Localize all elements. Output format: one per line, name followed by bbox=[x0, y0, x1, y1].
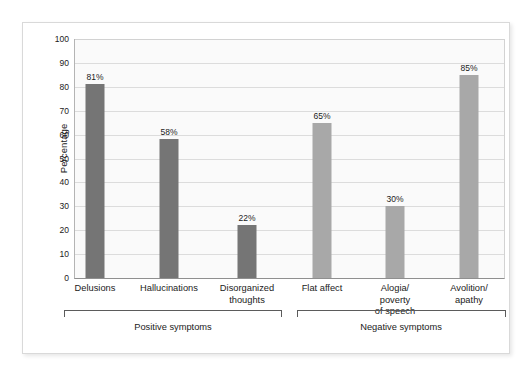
bar-value-label: 58% bbox=[160, 127, 177, 137]
bracket-negative-symptoms bbox=[297, 310, 506, 317]
x-axis-tick-label: Disorganizedthoughts bbox=[204, 283, 290, 306]
y-axis-tick-label: 10 bbox=[60, 249, 69, 259]
bracket-label-positive-symptoms: Positive symptoms bbox=[134, 322, 212, 332]
y-axis-tick-label: 30 bbox=[60, 201, 69, 211]
gridline bbox=[75, 206, 504, 207]
gridline bbox=[75, 230, 504, 231]
y-axis-tick-label: 20 bbox=[60, 225, 69, 235]
bar-value-label: 65% bbox=[313, 111, 330, 121]
bar-value-label: 30% bbox=[386, 194, 403, 204]
gridline bbox=[75, 182, 504, 183]
y-axis-tick-label: 0 bbox=[64, 273, 69, 283]
y-axis-tick-label: 70 bbox=[60, 106, 69, 116]
y-axis-tick-label: 100 bbox=[55, 34, 69, 44]
bar-negative-4[interactable]: 30% bbox=[386, 206, 405, 278]
gridline bbox=[75, 254, 504, 255]
gridline bbox=[75, 135, 504, 136]
y-axis-tick-label: 50 bbox=[60, 154, 69, 164]
bar-negative-3[interactable]: 65% bbox=[313, 123, 332, 278]
y-axis-tick-label: 90 bbox=[60, 58, 69, 68]
y-axis-tick-label: 40 bbox=[60, 177, 69, 187]
bar-negative-5[interactable]: 85% bbox=[460, 75, 479, 278]
y-axis-tick-label: 80 bbox=[60, 82, 69, 92]
gridline bbox=[75, 87, 504, 88]
bar-positive-2[interactable]: 22% bbox=[238, 225, 257, 278]
bar-positive-0[interactable]: 81% bbox=[86, 84, 105, 278]
gridline bbox=[75, 39, 504, 40]
bracket-label-negative-symptoms: Negative symptoms bbox=[360, 322, 442, 332]
bar-value-label: 85% bbox=[460, 63, 477, 73]
x-axis-tick-label: Hallucinations bbox=[126, 283, 212, 295]
bar-value-label: 81% bbox=[86, 72, 103, 82]
gridline bbox=[75, 63, 504, 64]
gridline bbox=[75, 111, 504, 112]
gridline bbox=[75, 159, 504, 160]
bar-value-label: 22% bbox=[238, 213, 255, 223]
y-axis-tick-label: 60 bbox=[60, 130, 69, 140]
bracket-positive-symptoms bbox=[64, 310, 282, 317]
x-axis-tick-label: Avolition/apathy bbox=[426, 283, 512, 306]
bar-positive-1[interactable]: 58% bbox=[160, 139, 179, 278]
chart-card: Percentage 1009080706050403020100Delusio… bbox=[22, 22, 510, 354]
plot-area: 1009080706050403020100Delusions81%Halluc… bbox=[74, 39, 505, 279]
